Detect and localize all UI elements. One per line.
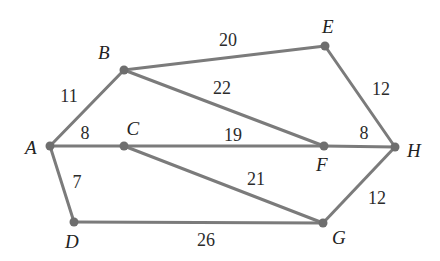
edges-layer [50, 46, 395, 223]
edge-weight-g-h: 12 [368, 189, 386, 207]
graph-node-b [120, 66, 129, 75]
vertex-label-f: F [316, 155, 328, 174]
edge-weight-d-g: 26 [197, 231, 215, 249]
edge-weight-c-g: 21 [247, 170, 265, 188]
edge-weight-a-d: 7 [73, 173, 82, 191]
edge-weight-a-b: 11 [60, 87, 77, 105]
edge-weight-f-h: 8 [360, 124, 369, 142]
vertex-label-h: H [407, 141, 421, 160]
vertex-label-e: E [322, 17, 334, 36]
edge-weight-e-h: 12 [372, 80, 390, 98]
graph-node-f [320, 142, 329, 151]
graph-node-e [321, 42, 330, 51]
graph-node-h [391, 143, 400, 152]
graph-node-a [46, 142, 55, 151]
graph-node-g [319, 219, 328, 228]
vertex-label-g: G [332, 228, 346, 247]
graph-figure: 1187202219212612812 ABCDEFGH [0, 0, 440, 261]
edge-weight-b-e: 20 [219, 31, 237, 49]
vertex-label-a: A [25, 138, 37, 157]
graph-edge-f-h [324, 146, 395, 147]
graph-node-c [120, 142, 129, 151]
edge-weight-b-f: 22 [213, 79, 231, 97]
edge-weight-c-f: 19 [224, 126, 242, 144]
vertex-label-c: C [127, 119, 140, 138]
graph-node-d [70, 218, 79, 227]
edge-weight-a-c: 8 [81, 124, 90, 142]
vertex-label-d: D [65, 232, 79, 251]
graph-edge-d-g [74, 222, 323, 223]
graph-edge-a-d [50, 146, 74, 222]
graph-edge-c-g [124, 146, 323, 223]
graph-edge-g-h [323, 147, 395, 223]
vertex-label-b: B [98, 43, 110, 62]
